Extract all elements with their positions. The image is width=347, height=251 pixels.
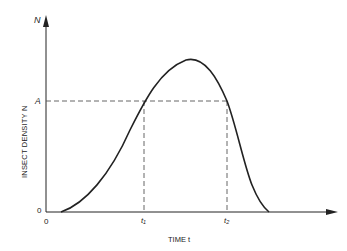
x-tick-zero: 0 xyxy=(44,218,48,226)
chart-canvas xyxy=(0,0,347,251)
density-curve xyxy=(61,59,269,212)
y-tick-zero: 0 xyxy=(37,207,41,215)
y-axis-title: INSECT DENSITY N xyxy=(20,105,29,178)
x-axis-title: TIME t xyxy=(168,236,190,244)
x-tick-t1: t₁ xyxy=(141,217,146,225)
y-axis-symbol: N xyxy=(34,16,41,25)
x-tick-t2: t₂ xyxy=(224,217,229,225)
y-tick-a: A xyxy=(35,97,41,106)
y-axis-arrow-icon xyxy=(43,15,49,27)
x-axis-arrow-icon xyxy=(326,209,338,215)
